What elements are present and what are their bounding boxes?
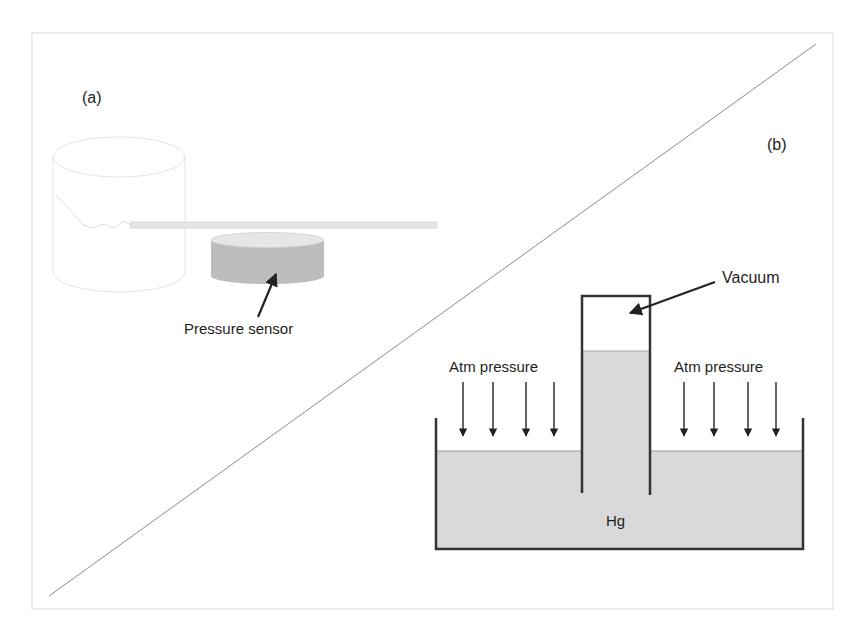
panel-a-label: (a) (82, 89, 102, 106)
vacuum-arrow (630, 282, 715, 313)
vacuum-label: Vacuum (722, 269, 780, 286)
panel-b-label: (b) (767, 136, 787, 153)
pressure-sensor-label: Pressure sensor (184, 320, 293, 337)
atm-pressure-left-label: Atm pressure (449, 358, 538, 375)
panel-a: (a) Pressure sensor (53, 89, 437, 337)
atm-arrows-left (463, 382, 554, 436)
pressure-sensor (211, 233, 324, 285)
atm-pressure-right-label: Atm pressure (674, 358, 763, 375)
panel-b: (b) Vacuum Atm pressure Atm pressure (436, 136, 803, 549)
container-cylinder (53, 137, 185, 292)
lever-bar (131, 222, 437, 228)
atm-arrows-right (684, 382, 776, 436)
figure: (a) Pressure sensor (b) (0, 0, 857, 638)
mercury-label: Hg (606, 512, 625, 529)
tube-mercury-column (583, 351, 649, 494)
